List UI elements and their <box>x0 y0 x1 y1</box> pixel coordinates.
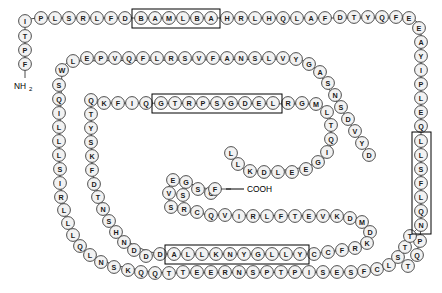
sequence-diagram-canvas: ITPFPLSRLFDBAMLBAHRLHQLAFDTYQFEEAYIPLEQL… <box>0 0 442 293</box>
residue-bead: F <box>105 12 118 25</box>
residue-bead: S <box>415 163 428 176</box>
residue-bead: K <box>361 237 374 250</box>
residue-letter: L <box>95 14 100 23</box>
residue-bead: I <box>233 210 246 223</box>
residue-bead: L <box>151 52 164 65</box>
residue-bead: M <box>163 12 176 25</box>
residue-letter: L <box>236 160 241 169</box>
residue-bead: R <box>77 12 90 25</box>
residue-bead: R <box>55 191 68 204</box>
residue-bead: S <box>53 79 66 92</box>
residue-letter: E <box>171 176 176 185</box>
residue-bead: P <box>415 78 428 91</box>
residue-bead: S <box>317 266 330 279</box>
residue-letter: S <box>253 54 258 63</box>
residue-bead: B <box>191 12 204 25</box>
residue-bead: F <box>415 177 428 190</box>
residue-letter: V <box>197 54 202 63</box>
residue-letter: E <box>257 99 262 108</box>
residue-letter: I <box>308 268 310 277</box>
residue-letter: F <box>90 166 95 175</box>
residue-bead: L <box>177 12 190 25</box>
residue-bead: L <box>182 248 195 261</box>
residue-bead: Q <box>415 205 428 218</box>
residue-letter: V <box>353 127 358 136</box>
residue-letter: R <box>352 244 358 253</box>
residue-letter: L <box>181 14 186 23</box>
residue-bead: G <box>303 58 316 71</box>
residue-bead: L <box>415 149 428 162</box>
residue-letter: S <box>339 103 344 112</box>
residue-bead: E <box>413 22 426 35</box>
residue-letter: Y <box>360 139 365 148</box>
residue-letter: I <box>58 109 60 118</box>
residue-letter: R <box>222 268 228 277</box>
residue-letter: S <box>396 253 401 262</box>
residue-letter: R <box>181 205 187 214</box>
residue-letter: T <box>352 13 357 22</box>
residue-letter: F <box>213 185 218 194</box>
residue-bead: R <box>178 203 191 216</box>
residue-bead: T <box>348 11 361 24</box>
residue-letter: G <box>158 99 164 108</box>
residue-letter: S <box>251 268 256 277</box>
residue-letter: G <box>255 250 261 259</box>
residue-bead: S <box>165 201 178 214</box>
residue-letter: L <box>57 137 62 146</box>
residue-bead: T <box>163 267 176 280</box>
residue-letter: T <box>173 99 178 108</box>
residue-letter: L <box>57 123 62 132</box>
residue-letter: L <box>270 250 275 259</box>
residue-letter: Q <box>418 122 424 131</box>
residue-letter: L <box>419 94 424 103</box>
residue-letter: G <box>299 99 305 108</box>
residue-bead: L <box>196 248 209 261</box>
residue-letter: N <box>238 54 243 63</box>
residue-bead: H <box>221 12 234 25</box>
residue-letter: B <box>138 14 143 23</box>
residue-bead: R <box>349 242 362 255</box>
residue-bead: L <box>291 12 304 25</box>
residue-letter: R <box>250 212 256 221</box>
residue-bead: Q <box>123 52 136 65</box>
residue-letter: L <box>267 54 272 63</box>
residue-bead: S <box>192 183 205 196</box>
residue-letter: G <box>228 99 234 108</box>
backbone-col2 <box>91 100 160 254</box>
residue-letter: G <box>183 178 189 187</box>
residue-letter: S <box>57 81 62 90</box>
residue-bead: L <box>267 97 280 110</box>
residue-letter: L <box>186 250 191 259</box>
residue-bead: F <box>137 52 150 65</box>
residue-bead: L <box>53 149 66 162</box>
residue-bead: V <box>193 52 206 65</box>
residue-bead: A <box>149 12 162 25</box>
residue-bead: L <box>261 210 274 223</box>
residue-bead: I <box>303 266 316 279</box>
residue-bead: I <box>54 177 67 190</box>
residue-letter: N <box>121 238 126 247</box>
n-terminus-group: NH 2 <box>14 81 33 92</box>
residue-letter: F <box>362 267 367 276</box>
residue-bead: L <box>67 229 80 242</box>
residue-letter: E <box>419 108 424 117</box>
residue-letter: K <box>334 212 340 221</box>
residue-letter: B <box>194 14 199 23</box>
residue-letter: Q <box>88 96 94 105</box>
residue-letter: A <box>224 54 229 63</box>
residue-bead: I <box>415 64 428 77</box>
residue-bead: Y <box>294 248 307 261</box>
residue-letter: K <box>89 152 95 161</box>
residue-letter: S <box>181 191 186 200</box>
residue-letter: S <box>321 268 326 277</box>
residue-letter: S <box>169 203 174 212</box>
n-terminus-subscript: 2 <box>29 86 33 92</box>
residue-letter: G <box>306 60 312 69</box>
residue-bead: Q <box>74 240 87 253</box>
residue-letter: N <box>236 268 241 277</box>
residue-bead: R <box>165 52 178 65</box>
residue-bead: D <box>119 12 132 25</box>
residue-bead: V <box>317 210 330 223</box>
residue-letter: N <box>332 91 337 100</box>
residue-letter: A <box>418 38 423 47</box>
